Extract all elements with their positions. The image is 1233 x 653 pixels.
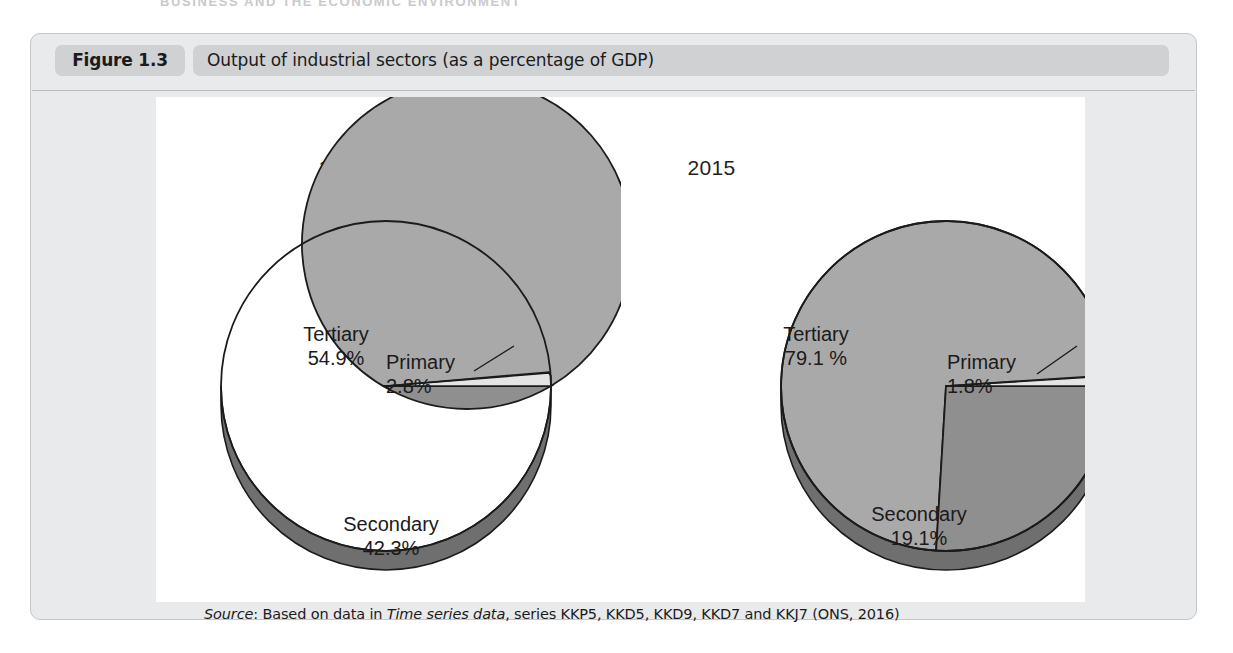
caption-divider [32, 90, 1195, 91]
pie-label-secondary-1974: Secondary 42.3% [301, 512, 481, 561]
source-publication: Time series data [387, 606, 505, 622]
pie-label-tertiary-2015-value: 79.1 % [736, 346, 896, 370]
source-label: Source [204, 606, 253, 622]
pie-label-secondary-1974-name: Secondary [343, 513, 439, 535]
pie-label-primary-2015-name: Primary [947, 351, 1016, 373]
pie-label-secondary-1974-value: 42.3% [301, 536, 481, 560]
figure-source: Source: Based on data in Time series dat… [204, 606, 900, 622]
pie-label-secondary-2015-name: Secondary [871, 503, 967, 525]
pie-label-tertiary-2015: Tertiary 79.1 % [736, 322, 896, 371]
pie-label-secondary-2015-value: 19.1% [829, 526, 1009, 550]
figure-title: Output of industrial sectors (as a perce… [207, 45, 654, 76]
figure-number-pill: Figure 1.3 [55, 45, 185, 76]
pie-chart-2015: 2015 Tertiary 79.1 % [616, 97, 1085, 602]
pie-label-primary-1974: Primary 2.8% [386, 350, 536, 399]
pie-label-secondary-2015: Secondary 19.1% [829, 502, 1009, 551]
pie-label-primary-1974-value: 2.8% [386, 374, 536, 398]
chart-canvas: 1974 [156, 97, 1085, 602]
pie-label-tertiary-2015-name: Tertiary [783, 323, 849, 345]
pie-label-tertiary-1974-name: Tertiary [303, 323, 369, 345]
running-head: BUSINESS AND THE ECONOMIC ENVIRONMENT [160, 0, 680, 12]
pie-label-primary-2015-value: 1.8% [947, 374, 1097, 398]
source-lead: Based on data in [262, 606, 386, 622]
figure-caption-bar: Figure 1.3 Output of industrial sectors … [31, 34, 1196, 86]
source-tail: , series KKP5, KKD5, KKD9, KKD7 and KKJ7… [505, 606, 899, 622]
pie-label-primary-1974-name: Primary [386, 351, 455, 373]
figure-number-label: Figure 1.3 [55, 45, 185, 76]
figure-title-pill: Output of industrial sectors (as a perce… [193, 45, 1169, 76]
figure-panel: Figure 1.3 Output of industrial sectors … [30, 33, 1197, 620]
pie-label-primary-2015: Primary 1.8% [947, 350, 1097, 399]
